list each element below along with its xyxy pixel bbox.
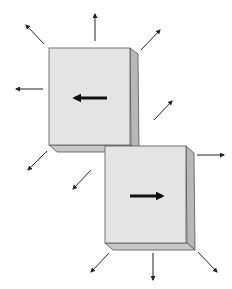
arrow-diag-up-right-icon: [154, 101, 172, 120]
arrow-diag-down-left-icon: [73, 170, 91, 189]
lower-right-block: [105, 146, 195, 250]
arrow-up-right-icon: [141, 30, 160, 50]
upper-left-block: [49, 48, 139, 152]
arrow-up-left-icon: [26, 25, 44, 44]
arrow-down-left-icon: [28, 151, 47, 170]
block-bottom-face: [105, 243, 195, 250]
arrow-down-left-lower-icon: [91, 253, 109, 272]
arrow-down-right-icon: [198, 252, 217, 272]
block-side-face: [130, 48, 139, 152]
diagram-canvas: [0, 0, 232, 289]
block-side-face: [186, 146, 195, 250]
